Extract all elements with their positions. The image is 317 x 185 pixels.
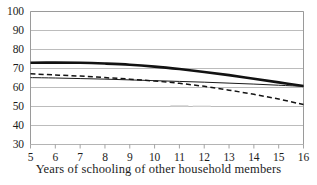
x-tick-label-14: 14 [244, 151, 264, 163]
x-tick-label-6: 6 [45, 151, 65, 163]
y-tick-label-40: 40 [0, 120, 24, 131]
plot-area: 30405060708090100 5678910111213141516 [0, 0, 317, 152]
y-tick-label-90: 90 [0, 25, 24, 36]
x-tick-label-9: 9 [120, 151, 140, 163]
x-tick-label-13: 13 [219, 151, 239, 163]
x-tick-label-11: 11 [169, 151, 189, 163]
x-tick-label-15: 15 [269, 151, 289, 163]
chart-canvas [0, 0, 317, 152]
x-axis-title: Years of schooling of other household me… [0, 162, 317, 177]
series-line-thick-solid [31, 63, 304, 86]
y-tick-label-70: 70 [0, 63, 24, 74]
x-tick-label-8: 8 [95, 151, 115, 163]
chart-figure: 30405060708090100 5678910111213141516 Ye… [0, 0, 317, 185]
x-tick-marks [31, 145, 304, 149]
y-tick-label-50: 50 [0, 101, 24, 112]
x-tick-label-12: 12 [194, 151, 214, 163]
y-tick-label-30: 30 [0, 139, 24, 150]
y-tick-label-80: 80 [0, 44, 24, 55]
y-tick-label-100: 100 [0, 6, 24, 17]
x-tick-label-10: 10 [145, 151, 165, 163]
x-tick-label-7: 7 [70, 151, 90, 163]
y-tick-label-60: 60 [0, 82, 24, 93]
x-tick-label-16: 16 [294, 151, 314, 163]
x-tick-label-5: 5 [21, 151, 41, 163]
